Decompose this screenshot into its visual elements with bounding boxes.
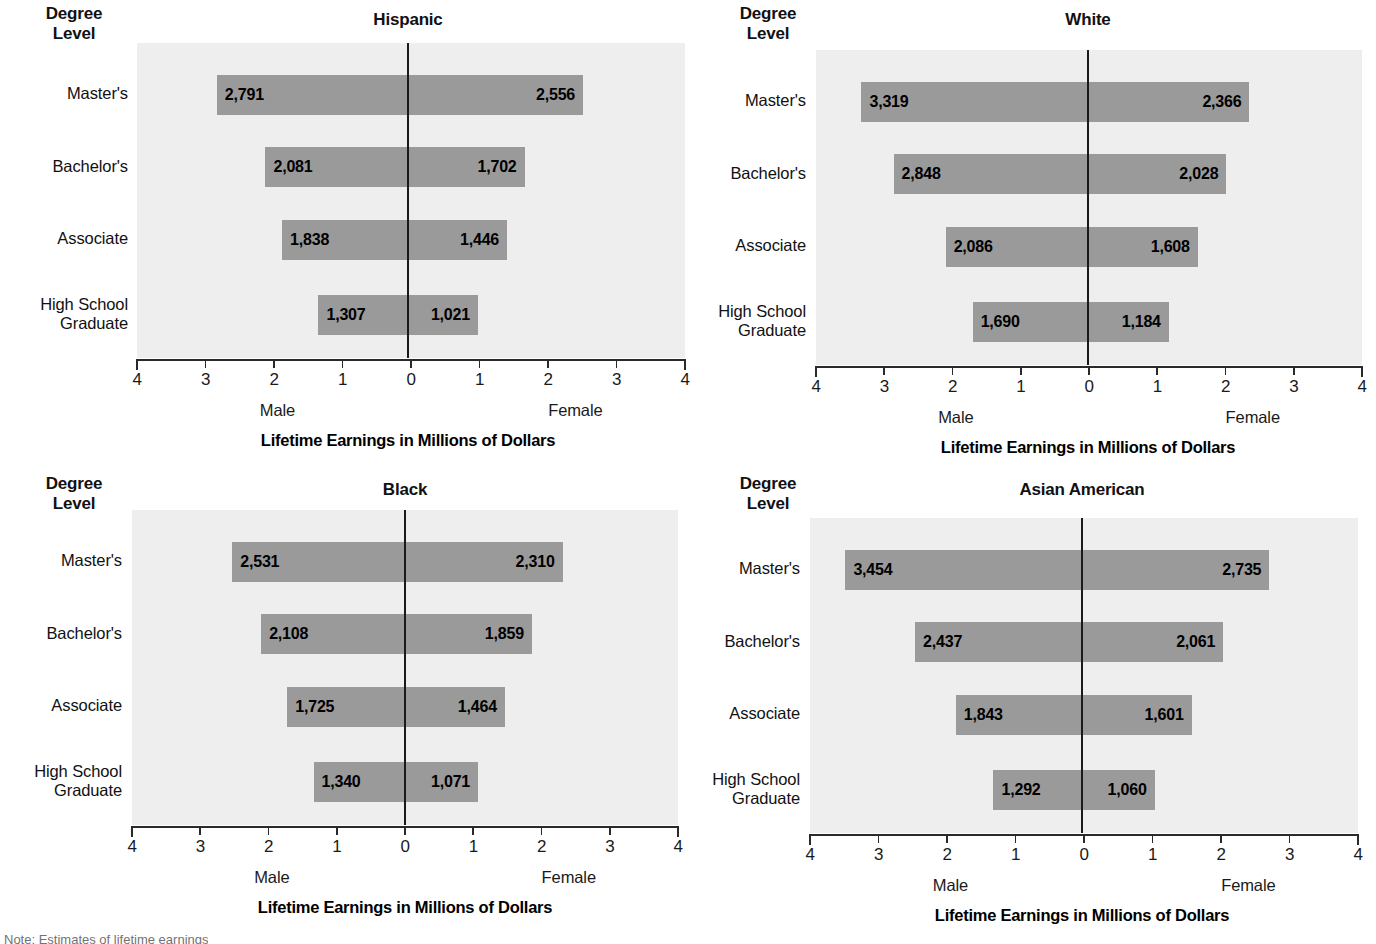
bar-row: 1,6901,184 (973, 302, 1169, 342)
degree-level-heading: DegreeLevel (18, 474, 130, 514)
category-label: Master's (690, 559, 800, 578)
chart-title: White (938, 10, 1238, 30)
female-axis-label: Female (509, 868, 629, 887)
x-axis-tick (815, 366, 817, 377)
x-axis-tick (268, 826, 270, 835)
bar-row: 1,8381,446 (282, 220, 507, 260)
male-axis-label: Male (890, 876, 1010, 895)
category-label-line: Master's (0, 551, 122, 570)
x-axis-tick (199, 826, 201, 835)
category-label-line: Associate (690, 236, 806, 255)
degree-level-heading: DegreeLevel (712, 474, 824, 514)
x-axis-tick-label: 3 (1281, 377, 1307, 397)
x-axis-tick (677, 826, 679, 837)
bar-row: 1,8431,601 (956, 695, 1192, 735)
category-label-line: Master's (0, 84, 128, 103)
x-axis-tick (541, 826, 543, 835)
bar-value-male: 3,319 (869, 93, 908, 111)
bar-value-female: 1,601 (1145, 706, 1184, 724)
x-axis-title: Lifetime Earnings in Millions of Dollars (145, 898, 665, 917)
bar-row: 3,3192,366 (861, 82, 1249, 122)
degree-level-heading: DegreeLevel (712, 4, 824, 44)
chart-panel-hispanic: DegreeLevelHispanicMaster'sBachelor'sAss… (0, 0, 690, 470)
x-axis-tick-label: 3 (187, 837, 213, 857)
bar-value-female: 2,556 (536, 86, 575, 104)
category-label: Associate (690, 704, 800, 723)
bar-value-male: 2,791 (225, 86, 264, 104)
x-axis-tick-label: 2 (261, 370, 287, 390)
x-axis-title: Lifetime Earnings in Millions of Dollars (148, 431, 668, 450)
x-axis-tick (616, 359, 618, 368)
x-axis-tick-label: 1 (1003, 845, 1029, 865)
zero-axis-line (404, 510, 406, 825)
bar-row: 2,8482,028 (894, 154, 1227, 194)
category-label: Bachelor's (690, 632, 800, 651)
x-axis-tick-label: 4 (797, 845, 823, 865)
x-axis-tick (136, 359, 138, 370)
x-axis-tick-label: 3 (1277, 845, 1303, 865)
x-axis-tick-label: 0 (1076, 377, 1102, 397)
x-axis-tick-label: 0 (1071, 845, 1097, 865)
bar-row: 2,4372,061 (915, 622, 1223, 662)
category-label-line: High School (0, 762, 122, 781)
male-axis-label: Male (217, 401, 337, 420)
category-label-line: Bachelor's (690, 632, 800, 651)
degree-level-heading-line: Level (712, 494, 824, 514)
plot-area: 3,4542,7352,4372,0611,8431,6011,2921,060 (810, 518, 1358, 833)
zero-axis-line (407, 43, 409, 358)
bar-value-female: 1,060 (1108, 781, 1147, 799)
plot-area: 2,7912,5562,0811,7021,8381,4461,3071,021 (137, 43, 685, 358)
bar-value-female: 1,608 (1151, 238, 1190, 256)
x-axis-tick-label: 2 (535, 370, 561, 390)
category-label-line: High School (0, 295, 128, 314)
category-label: Master's (690, 91, 806, 110)
chart-panel-asian-american: DegreeLevelAsian AmericanMaster'sBachelo… (690, 470, 1376, 944)
x-axis-tick-label: 4 (803, 377, 829, 397)
category-label-line: Graduate (690, 321, 806, 340)
bar-row: 1,3071,021 (318, 295, 477, 335)
x-axis-title: Lifetime Earnings in Millions of Dollars (828, 438, 1348, 457)
category-label: Associate (0, 229, 128, 248)
x-axis-title: Lifetime Earnings in Millions of Dollars (822, 906, 1342, 925)
x-axis-tick-label: 0 (398, 370, 424, 390)
chart-title: Asian American (932, 480, 1232, 500)
x-axis-tick (878, 834, 880, 843)
chart-panel-white: DegreeLevelWhiteMaster'sBachelor'sAssoci… (690, 0, 1376, 470)
category-label: Associate (0, 696, 122, 715)
x-axis-tick-label: 3 (871, 377, 897, 397)
x-axis-tick (609, 826, 611, 835)
x-axis-tick (205, 359, 207, 368)
degree-level-heading: DegreeLevel (18, 4, 130, 44)
male-axis-label: Male (896, 408, 1016, 427)
bar-value-male: 1,340 (322, 773, 361, 791)
category-label-line: Bachelor's (0, 624, 122, 643)
category-label-line: Graduate (0, 781, 122, 800)
category-label: Master's (0, 551, 122, 570)
x-axis-tick-label: 2 (1208, 845, 1234, 865)
x-axis-tick-label: 2 (934, 845, 960, 865)
x-axis-tick-label: 1 (330, 370, 356, 390)
x-axis-tick (1015, 834, 1017, 843)
bar-row: 2,0811,702 (265, 147, 524, 187)
bar-value-male: 1,843 (964, 706, 1003, 724)
bar-value-female: 2,028 (1179, 165, 1218, 183)
x-axis-tick-label: 3 (604, 370, 630, 390)
x-axis-tick (1293, 366, 1295, 375)
x-axis-tick (479, 359, 481, 368)
bar-value-male: 3,454 (853, 561, 892, 579)
x-axis-tick-label: 4 (1345, 845, 1371, 865)
chart-title: Black (255, 480, 555, 500)
x-axis-tick (1020, 366, 1022, 375)
x-axis-tick (1156, 366, 1158, 375)
plot-area: 2,5312,3102,1081,8591,7251,4641,3401,071 (132, 510, 678, 825)
category-label-line: Master's (690, 91, 806, 110)
zero-axis-line (1087, 50, 1089, 365)
bar-row: 2,5312,310 (232, 542, 562, 582)
bar-value-male: 2,848 (902, 165, 941, 183)
x-axis-tick (1289, 834, 1291, 843)
degree-level-heading-line: Level (18, 24, 130, 44)
bar-value-female: 1,859 (485, 625, 524, 643)
category-label: Bachelor's (690, 164, 806, 183)
category-label: High SchoolGraduate (690, 770, 800, 808)
x-axis-tick-label: 1 (460, 837, 486, 857)
